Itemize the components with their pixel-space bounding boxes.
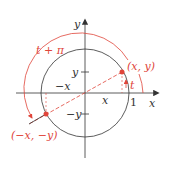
extension-line — [29, 114, 46, 124]
tick-one: 1 — [130, 96, 137, 109]
point-p-label: (x, y) — [127, 60, 155, 73]
point-p — [120, 70, 125, 75]
x-axis-label: x — [149, 97, 156, 110]
point-q-label: (−x, −y) — [11, 129, 57, 142]
diagram-canvas: x y 1 x −x y −y (x, y) (−x, −y) t t + π — [0, 0, 171, 171]
tick-y: y — [71, 66, 79, 79]
tick-neg-y: −y — [66, 108, 82, 121]
tick-x: x — [102, 94, 109, 107]
angle-t-label: t — [130, 79, 135, 92]
tick-neg-x: −x — [55, 80, 71, 93]
angle-t-arc — [139, 74, 143, 93]
y-axis-label: y — [73, 18, 81, 31]
point-q — [44, 112, 49, 117]
angle-t-plus-pi-label: t + π — [36, 44, 65, 57]
unit-circle-diagram: x y 1 x −x y −y (x, y) (−x, −y) t t + π — [0, 0, 171, 171]
